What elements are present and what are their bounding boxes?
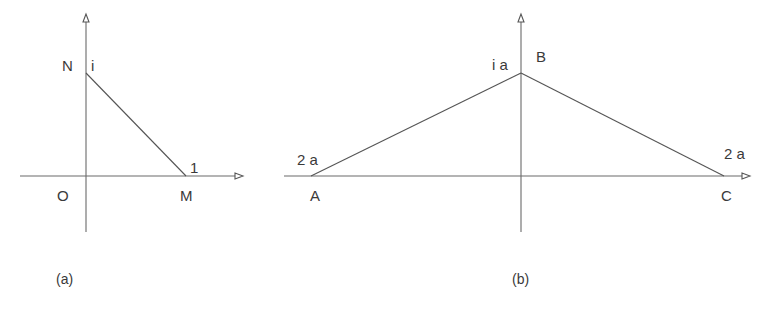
point-M-label: M	[180, 187, 193, 204]
origin-O-label: O	[57, 187, 69, 204]
figure-canvas: N i 1 M O (a) 2 a A i a B 2 a C (b)	[0, 0, 769, 324]
panel-b: 2 a A i a B 2 a C (b)	[284, 14, 750, 287]
point-M-value: 1	[190, 159, 198, 176]
point-A-label: A	[310, 187, 320, 204]
point-B-label: B	[536, 48, 546, 65]
panel-b-caption: (b)	[512, 271, 529, 287]
panel-a: N i 1 M O (a)	[20, 14, 243, 287]
panel-a-y-axis-arrow-icon	[83, 14, 89, 22]
segment-BC	[521, 73, 724, 176]
point-N-value: i	[91, 57, 94, 74]
panel-b-y-axis-arrow-icon	[518, 14, 524, 22]
point-C-value: 2 a	[724, 145, 746, 162]
point-A-value: 2 a	[297, 151, 319, 168]
panel-a-x-axis-arrow-icon	[235, 173, 243, 179]
segment-AB	[311, 73, 521, 176]
point-C-label: C	[721, 187, 732, 204]
panel-b-x-axis-arrow-icon	[742, 173, 750, 179]
point-N-label: N	[62, 57, 73, 74]
point-B-value: i a	[492, 56, 509, 73]
segment-NM	[86, 73, 186, 176]
panel-a-caption: (a)	[56, 271, 73, 287]
